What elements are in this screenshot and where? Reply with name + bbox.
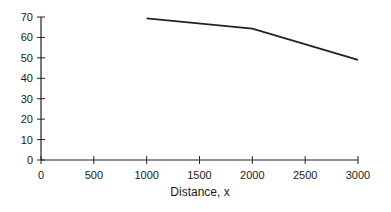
x-axis: 050010001500200025003000 bbox=[38, 156, 370, 181]
y-tick-label: 30 bbox=[21, 93, 33, 105]
x-tick-label: 0 bbox=[38, 169, 44, 181]
y-tick-label: 20 bbox=[21, 113, 33, 125]
y-tick-label: 50 bbox=[21, 52, 33, 64]
data-series bbox=[147, 18, 358, 59]
x-tick-label: 2500 bbox=[293, 169, 317, 181]
y-tick-label: 70 bbox=[21, 11, 33, 23]
series-line bbox=[147, 18, 358, 59]
y-axis: 010203040506070 bbox=[21, 11, 45, 166]
x-tick-label: 2000 bbox=[240, 169, 264, 181]
line-chart: 010203040506070 050010001500200025003000… bbox=[0, 0, 391, 212]
x-tick-label: 500 bbox=[85, 169, 103, 181]
y-tick-label: 40 bbox=[21, 72, 33, 84]
x-tick-label: 3000 bbox=[346, 169, 370, 181]
y-tick-label: 0 bbox=[27, 154, 33, 166]
y-tick-label: 60 bbox=[21, 31, 33, 43]
x-tick-label: 1500 bbox=[187, 169, 211, 181]
y-tick-label: 10 bbox=[21, 134, 33, 146]
x-tick-label: 1000 bbox=[134, 169, 158, 181]
x-axis-title: Distance, x bbox=[170, 185, 229, 199]
